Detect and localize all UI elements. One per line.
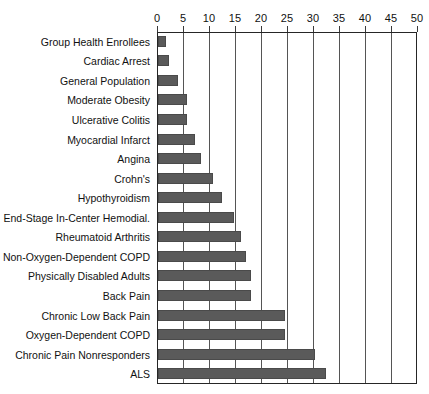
x-tick-label-5: 5 xyxy=(180,12,186,24)
bar-13 xyxy=(158,290,251,301)
category-label-1: Cardiac Arrest xyxy=(83,55,150,67)
category-label-2: General Population xyxy=(60,75,150,87)
x-tick-label-25: 25 xyxy=(281,12,293,24)
category-label-5: Myocardial Infarct xyxy=(67,134,150,146)
bar-1 xyxy=(158,55,169,66)
bar-6 xyxy=(158,153,201,164)
x-tick-label-20: 20 xyxy=(255,12,267,24)
bar-15 xyxy=(158,329,285,340)
category-label-16: Chronic Pain Nonresponders xyxy=(15,349,150,361)
x-tick-label-35: 35 xyxy=(333,12,345,24)
category-label-8: Hypothyroidism xyxy=(78,192,150,204)
x-tick-label-30: 30 xyxy=(307,12,319,24)
category-label-12: Physically Disabled Adults xyxy=(28,270,150,282)
gridline-35 xyxy=(339,33,340,383)
bar-11 xyxy=(158,251,246,262)
bar-0 xyxy=(158,36,166,47)
bar-14 xyxy=(158,310,285,321)
bar-16 xyxy=(158,349,315,360)
x-tick-label-15: 15 xyxy=(229,12,241,24)
category-label-6: Angina xyxy=(117,153,150,165)
category-labels-column: Group Health EnrolleesCardiac ArrestGene… xyxy=(0,32,153,384)
bar-3 xyxy=(158,94,187,105)
bar-10 xyxy=(158,231,241,242)
x-tick-label-10: 10 xyxy=(203,12,215,24)
bar-17 xyxy=(158,368,326,379)
gridline-25 xyxy=(287,33,288,383)
category-label-14: Chronic Low Back Pain xyxy=(41,310,150,322)
gridline-40 xyxy=(365,33,366,383)
bar-4 xyxy=(158,114,187,125)
bar-8 xyxy=(158,192,222,203)
x-axis-top: 05101520253035404550 xyxy=(0,0,429,32)
x-tick-label-0: 0 xyxy=(154,12,160,24)
category-label-13: Back Pain xyxy=(103,290,150,302)
category-label-9: End-Stage In-Center Hemodial. xyxy=(4,212,151,224)
category-label-7: Crohn's xyxy=(114,173,150,185)
category-label-17: ALS xyxy=(130,368,150,380)
bar-5 xyxy=(158,134,195,145)
category-label-4: Ulcerative Colitis xyxy=(72,114,150,126)
category-label-3: Moderate Obesity xyxy=(67,94,150,106)
bar-2 xyxy=(158,75,178,86)
plot-area xyxy=(157,32,417,384)
horizontal-bar-chart: 05101520253035404550 Group Health Enroll… xyxy=(0,0,429,394)
gridline-45 xyxy=(391,33,392,383)
x-tick-label-40: 40 xyxy=(359,12,371,24)
gridline-30 xyxy=(313,33,314,383)
bar-9 xyxy=(158,212,234,223)
category-label-0: Group Health Enrollees xyxy=(41,36,150,48)
category-label-10: Rheumatoid Arthritis xyxy=(55,231,150,243)
bar-7 xyxy=(158,173,213,184)
bar-12 xyxy=(158,270,251,281)
category-label-11: Non-Oxygen-Dependent COPD xyxy=(3,251,150,263)
x-tick-label-50: 50 xyxy=(411,12,423,24)
x-tick-label-45: 45 xyxy=(385,12,397,24)
category-label-15: Oxygen-Dependent COPD xyxy=(26,329,150,341)
